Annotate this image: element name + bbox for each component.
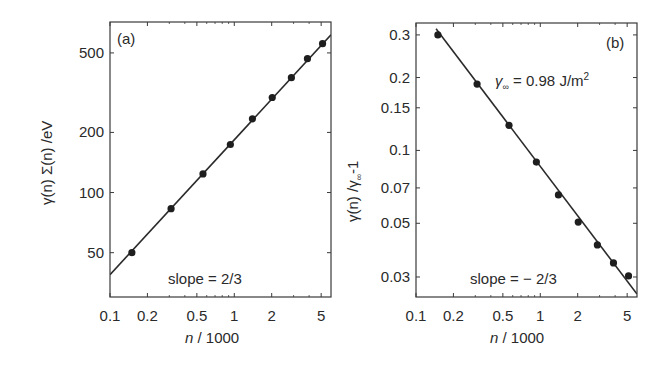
y-tick-label: 200 — [79, 123, 104, 140]
panel-b-plot: 0.10.20.51250.030.050.070.10.150.20.3 (b… — [344, 23, 637, 346]
panel-b-data-point — [594, 241, 601, 248]
panel-a-plot: 0.10.20.512550100200500 (a) slope = 2/3 … — [38, 22, 331, 346]
x-tick-label: 0.5 — [186, 307, 207, 324]
x-tick-label: 0.1 — [406, 307, 427, 324]
panel-a-data-point — [288, 74, 295, 81]
panel-a-data-point — [249, 115, 256, 122]
panel-b-data-point — [473, 80, 480, 87]
panel-b-data-point — [505, 122, 512, 129]
panel-a-label: (a) — [117, 30, 135, 47]
panel-b-y-axis-label: γ(n) /γ∞-1 — [344, 161, 364, 222]
panel-b-frame — [416, 23, 637, 297]
panel-b-data-point — [575, 218, 582, 225]
x-tick-label: 2 — [574, 307, 582, 324]
panel-b-data-point — [533, 158, 540, 165]
panel-a-data-point — [227, 141, 234, 148]
x-tick-label: 0.2 — [443, 307, 464, 324]
panel-a-data-point — [167, 205, 174, 212]
y-tick-label: 0.05 — [381, 214, 410, 231]
panel-b-label: (b) — [606, 34, 624, 51]
panel-b-data-point — [625, 272, 632, 279]
y-tick-label: 0.2 — [389, 69, 410, 86]
panel-a-x-label-rest: / 1000 — [193, 329, 239, 346]
y-tick-label: 0.15 — [381, 99, 410, 116]
x-tick-label: 5 — [317, 307, 325, 324]
y-tick-label: 500 — [79, 44, 104, 61]
panel-b-data-layer — [434, 29, 637, 294]
panel-b-data-point — [555, 191, 562, 198]
panel-b-x-label-rest: / 1000 — [498, 329, 544, 346]
panel-a-data-point — [199, 170, 206, 177]
panel-a-series — [110, 35, 331, 275]
y-tick-label: 0.03 — [381, 268, 410, 285]
y-tick-label: 50 — [87, 244, 104, 261]
x-tick-label: 5 — [623, 307, 631, 324]
x-tick-label: 2 — [268, 307, 276, 324]
panel-a-data-point — [304, 55, 311, 62]
x-tick-label: 1 — [230, 307, 238, 324]
panel-a-slope-annotation: slope = 2/3 — [168, 270, 242, 287]
gamma-inf-superscript: 2 — [584, 71, 590, 82]
figure: 0.10.20.512550100200500 (a) slope = 2/3 … — [0, 0, 667, 375]
panel-b-data-point — [434, 31, 441, 38]
x-tick-label: 0.5 — [492, 307, 513, 324]
panel-b-y-label-main: γ(n) /γ — [344, 180, 361, 222]
x-tick-label: 0.2 — [137, 307, 158, 324]
panel-b-data-point — [610, 259, 617, 266]
y-tick-label: 0.3 — [389, 26, 410, 43]
y-tick-label: 100 — [79, 184, 104, 201]
panel-a-x-label-n: n — [185, 329, 193, 346]
panel-b-slope-annotation: slope = − 2/3 — [470, 270, 557, 287]
panel-b-series — [434, 29, 637, 294]
panel-a-fit-line — [110, 35, 331, 275]
panel-a-data-point — [319, 40, 326, 47]
panel-b-y-label-tail: -1 — [344, 161, 361, 174]
panel-a-y-axis-label: γ(n) Σ(n) /eV — [38, 121, 55, 205]
panel-a-data-point — [128, 249, 135, 256]
x-tick-label: 1 — [536, 307, 544, 324]
gamma-inf-value: = 0.98 J/m — [509, 72, 584, 89]
panel-b-x-label-n: n — [490, 329, 498, 346]
y-tick-label: 0.1 — [389, 141, 410, 158]
y-tick-label: 0.07 — [381, 179, 410, 196]
panel-a-data-layer — [110, 35, 331, 275]
panel-b-x-axis-label: n / 1000 — [490, 329, 544, 346]
panel-a-data-point — [269, 94, 276, 101]
chart-canvas: 0.10.20.512550100200500 (a) slope = 2/3 … — [0, 0, 667, 375]
panel-a-frame — [110, 22, 331, 297]
panel-a-x-axis-label: n / 1000 — [185, 329, 239, 346]
x-tick-label: 0.1 — [100, 307, 121, 324]
panel-b-gamma-inf-annotation: γ∞ = 0.98 J/m2 — [495, 71, 590, 92]
